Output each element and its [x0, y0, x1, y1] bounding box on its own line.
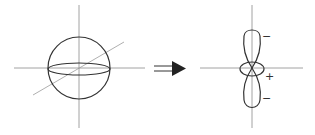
orbital-diagram [0, 0, 315, 135]
dz2-figure [200, 5, 303, 128]
torus-sign: + [265, 71, 274, 82]
lower-lobe-sign: − [262, 93, 271, 104]
sphere-figure [14, 5, 145, 128]
transform-arrow-icon [154, 61, 186, 76]
upper-lobe-sign: − [262, 31, 271, 42]
